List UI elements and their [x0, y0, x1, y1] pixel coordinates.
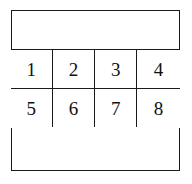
cell-label-4: 4 — [154, 60, 164, 79]
empty-band-top — [12, 11, 179, 49]
cell-label-7: 7 — [111, 99, 121, 118]
grid-cell-3: 3 — [95, 50, 137, 89]
cell-label-1: 1 — [26, 60, 36, 79]
grid-cell-2: 2 — [53, 50, 95, 89]
grid-cell-1: 1 — [11, 50, 53, 89]
grid-cell-6: 6 — [53, 89, 95, 128]
cell-label-2: 2 — [69, 60, 79, 79]
empty-band-bottom — [12, 127, 179, 170]
cell-label-3: 3 — [111, 60, 121, 79]
cell-label-5: 5 — [26, 99, 36, 118]
figure-root: 1 2 3 4 5 6 7 8 — [0, 0, 192, 184]
cell-label-8: 8 — [154, 99, 164, 118]
grid-cell-7: 7 — [95, 89, 137, 128]
grid-cell-4: 4 — [137, 50, 179, 89]
cell-label-6: 6 — [69, 99, 79, 118]
outer-rectangle: 1 2 3 4 5 6 7 8 — [11, 10, 180, 171]
numbered-cell-grid: 1 2 3 4 5 6 7 8 — [11, 49, 180, 129]
grid-cell-8: 8 — [137, 89, 179, 128]
grid-cell-5: 5 — [11, 89, 53, 128]
